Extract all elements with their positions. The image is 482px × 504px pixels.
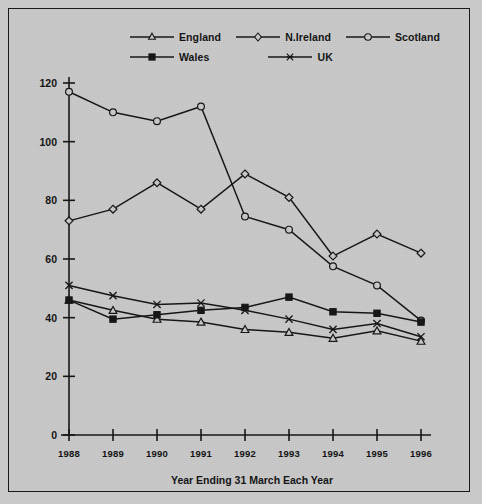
data-point-marker: [66, 88, 73, 95]
data-point-marker: [154, 312, 160, 318]
data-point-marker: [109, 205, 117, 213]
y-tick-label: 100: [39, 136, 57, 148]
x-axis-tick-labels: 198819891990199119921993199419951996: [58, 448, 432, 459]
chart-axes: [61, 77, 431, 441]
data-point-marker: [242, 213, 249, 220]
data-point-marker: [153, 179, 161, 187]
data-point-marker: [110, 316, 116, 322]
data-point-marker: [374, 282, 381, 289]
x-tick-label: 1993: [278, 448, 300, 459]
chart-frame: England N.Ireland Scotland: [8, 8, 470, 492]
x-tick-label: 1994: [322, 448, 344, 459]
data-point-marker: [374, 310, 380, 316]
x-tick-label: 1989: [102, 448, 124, 459]
data-point-marker: [198, 103, 205, 110]
data-point-marker: [330, 309, 336, 315]
x-tick-label: 1991: [190, 448, 212, 459]
series-england: [65, 296, 425, 344]
data-point-marker: [65, 217, 73, 225]
x-tick-label: 1990: [146, 448, 168, 459]
data-point-marker: [417, 249, 425, 257]
x-tick-label: 1988: [58, 448, 80, 459]
data-point-marker: [330, 263, 337, 270]
y-tick-label: 80: [45, 194, 57, 206]
data-point-marker: [286, 226, 293, 233]
y-tick-label: 60: [45, 253, 57, 265]
y-tick-label: 20: [45, 370, 57, 382]
data-point-marker: [373, 327, 381, 334]
chart-series-group: [65, 88, 425, 344]
x-tick-label: 1996: [410, 448, 432, 459]
data-point-marker: [66, 297, 72, 303]
x-tick-label: 1992: [234, 448, 256, 459]
x-axis-title: Year Ending 31 March Each Year: [171, 474, 333, 486]
series-scotland: [66, 88, 425, 324]
y-axis-tick-labels: 020406080100120: [39, 77, 57, 441]
y-tick-label: 40: [45, 312, 57, 324]
data-point-marker: [198, 307, 204, 313]
line-chart-plot: 020406080100120 198819891990199119921993…: [9, 9, 471, 493]
data-point-marker: [154, 118, 161, 125]
x-tick-label: 1995: [366, 448, 388, 459]
data-point-marker: [286, 294, 292, 300]
y-tick-label: 120: [39, 77, 57, 89]
data-point-marker: [418, 319, 424, 325]
y-tick-label: 0: [51, 429, 57, 441]
data-point-marker: [373, 230, 381, 238]
data-point-marker: [110, 109, 117, 116]
